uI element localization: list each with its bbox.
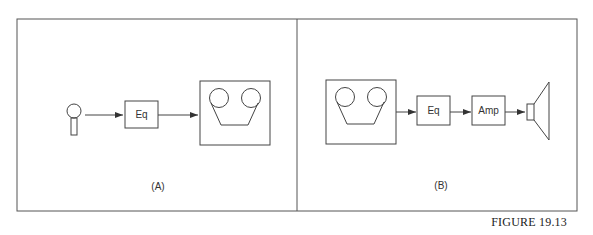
tape-recorder-icon	[326, 80, 396, 144]
microphone-icon	[67, 104, 81, 135]
panel-label-b: (B)	[434, 180, 447, 191]
panel-b: Eq Amp (B)	[326, 80, 549, 191]
eq-label-a: Eq	[135, 109, 147, 120]
figure-caption: FIGURE 19.13	[491, 215, 567, 229]
panel-a: Eq (A)	[67, 81, 270, 192]
amp-block: Amp	[472, 96, 505, 125]
eq-block-b: Eq	[417, 96, 450, 125]
panel-label-a: (A)	[151, 181, 164, 192]
eq-block-a: Eq	[125, 101, 158, 128]
loudspeaker-icon	[527, 82, 549, 140]
eq-label-b: Eq	[427, 105, 439, 116]
amp-label: Amp	[478, 105, 499, 116]
tape-recorder-icon	[200, 81, 270, 145]
figure-diagram: Eq (A) Eq Amp	[0, 0, 593, 235]
